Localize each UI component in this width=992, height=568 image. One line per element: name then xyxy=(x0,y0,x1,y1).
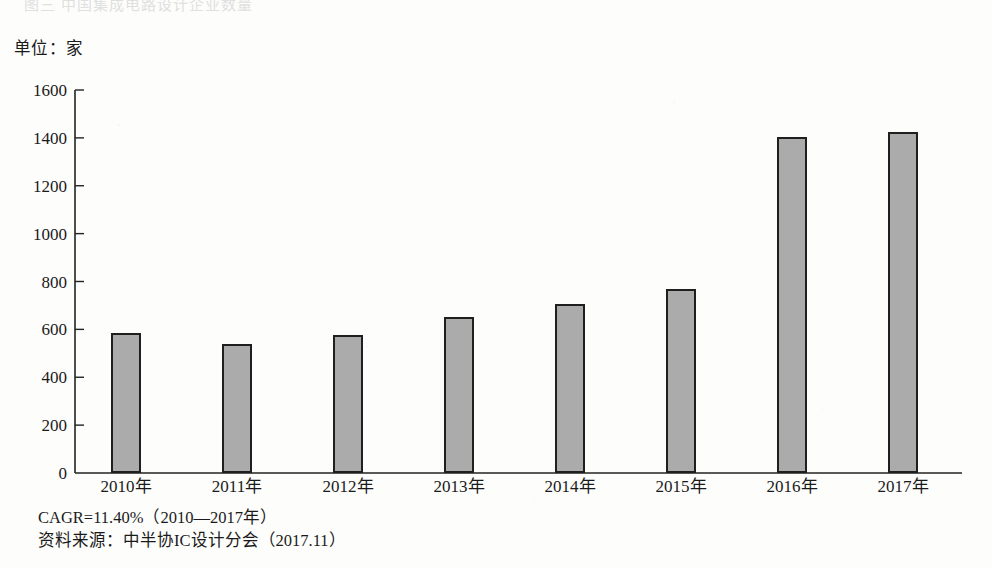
bar xyxy=(555,304,585,473)
y-tick-label: 0 xyxy=(9,465,67,482)
chart-footnotes: CAGR=11.40%（2010—2017年） 资料来源：中半协IC设计分会（2… xyxy=(38,506,346,553)
cagr-note: CAGR=11.40%（2010—2017年） xyxy=(38,506,346,529)
bar xyxy=(777,137,807,473)
y-tick-label: 800 xyxy=(9,273,67,290)
bar xyxy=(222,344,252,473)
bar xyxy=(666,289,696,473)
x-tick-label: 2015年 xyxy=(626,478,736,495)
source-note: 资料来源：中半协IC设计分会（2017.11） xyxy=(38,529,346,552)
bar xyxy=(888,132,918,473)
y-tick-label: 200 xyxy=(9,417,67,434)
y-tick-label: 600 xyxy=(9,321,67,338)
y-tick-label: 1000 xyxy=(9,225,67,242)
x-tick-label: 2011年 xyxy=(182,478,292,495)
bar xyxy=(444,317,474,473)
y-tick-label: 1400 xyxy=(9,129,67,146)
x-tick-label: 2014年 xyxy=(515,478,625,495)
bar xyxy=(333,335,363,473)
x-tick-label: 2012年 xyxy=(293,478,403,495)
bar xyxy=(111,333,141,473)
bar-chart: 020040060080010001200140016002010年2011年2… xyxy=(0,0,992,568)
x-tick-label: 2016年 xyxy=(737,478,847,495)
y-tick-label: 400 xyxy=(9,369,67,386)
x-tick-label: 2017年 xyxy=(848,478,958,495)
y-tick-label: 1200 xyxy=(9,177,67,194)
x-tick-label: 2010年 xyxy=(71,478,181,495)
x-tick-label: 2013年 xyxy=(404,478,514,495)
y-tick-label: 1600 xyxy=(9,82,67,99)
